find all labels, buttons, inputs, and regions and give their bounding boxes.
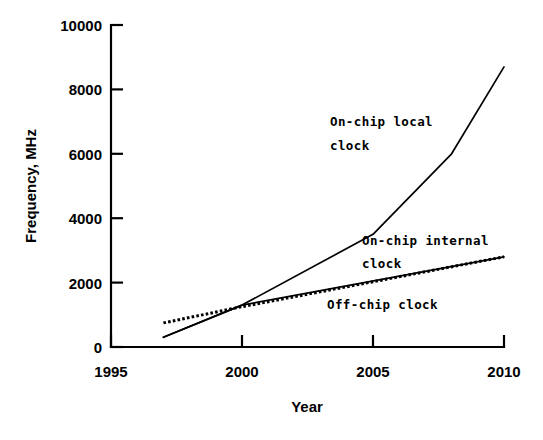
x-axis-ticks <box>111 335 504 347</box>
annotation-on-chip-local-clock: On-chip local clock <box>330 114 433 153</box>
y-tick-label-6000: 6000 <box>69 146 102 163</box>
y-tick-label-10000: 10000 <box>60 17 102 34</box>
chart-canvas: 10000 8000 6000 4000 2000 0 1995 2000 20… <box>0 0 543 440</box>
x-tick-label-2000: 2000 <box>225 363 258 380</box>
y-tick-label-4000: 4000 <box>69 210 102 227</box>
annotation-on-chip-local-clock-line2: clock <box>330 138 370 153</box>
annotation-on-chip-local-clock-line1: On-chip local <box>330 114 433 129</box>
x-axis-title: Year <box>291 398 323 415</box>
x-tick-label-2010: 2010 <box>487 363 520 380</box>
y-tick-label-0: 0 <box>94 339 102 356</box>
annotation-on-chip-internal-clock: On-chip internal clock <box>362 233 489 271</box>
annotation-off-chip-clock-line1: Off-chip clock <box>327 297 438 312</box>
frequency-trend-chart: 10000 8000 6000 4000 2000 0 1995 2000 20… <box>0 0 543 440</box>
y-axis-ticks <box>111 25 123 347</box>
y-axis-title: Frequency, MHz <box>22 129 39 243</box>
annotation-on-chip-internal-clock-line1: On-chip internal <box>362 233 489 248</box>
annotation-on-chip-internal-clock-line2: clock <box>362 256 402 271</box>
series-line-off-chip-clock <box>163 257 504 323</box>
y-tick-label-2000: 2000 <box>69 275 102 292</box>
x-tick-label-1995: 1995 <box>94 363 127 380</box>
y-tick-label-8000: 8000 <box>69 81 102 98</box>
annotation-off-chip-clock: Off-chip clock <box>327 297 438 312</box>
x-tick-label-2005: 2005 <box>356 363 389 380</box>
